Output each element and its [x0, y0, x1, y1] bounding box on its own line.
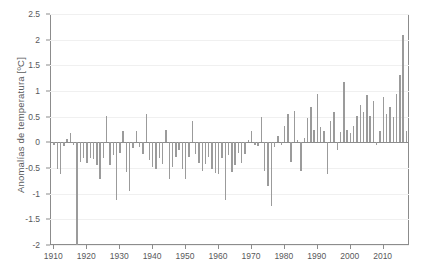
bar: [215, 142, 216, 173]
bar: [80, 142, 81, 162]
bar: [264, 142, 265, 170]
bar: [300, 142, 301, 170]
bar: [182, 142, 183, 169]
x-tick-mark: [152, 245, 153, 249]
x-tick-mark: [317, 245, 318, 249]
x-tick-mark: [185, 245, 186, 249]
bar: [323, 131, 324, 142]
bar: [139, 142, 140, 147]
bar: [353, 126, 354, 142]
bar: [337, 142, 338, 150]
bar: [188, 142, 189, 156]
bar: [274, 142, 275, 147]
bar: [149, 142, 150, 160]
bar: [350, 133, 351, 142]
y-tick-label: -0.5: [25, 163, 40, 173]
x-tick-mark: [350, 245, 351, 249]
bar: [96, 142, 97, 165]
bar: [106, 116, 107, 143]
bar: [393, 117, 394, 143]
left-axis-spine: [50, 14, 51, 245]
x-tick-mark: [218, 245, 219, 249]
bar: [165, 130, 166, 143]
right-axis-spine: [408, 14, 409, 245]
bar: [132, 142, 133, 148]
bar: [136, 131, 137, 142]
bar: [155, 142, 156, 169]
bar: [53, 142, 54, 145]
bar: [366, 95, 367, 142]
bar: [103, 142, 104, 157]
bar: [330, 121, 331, 143]
x-tick-label: 1920: [77, 251, 96, 261]
bar: [159, 142, 160, 157]
bar: [333, 112, 334, 143]
bar: [83, 142, 84, 157]
bar: [267, 142, 268, 186]
bar: [208, 142, 209, 156]
bar: [297, 140, 298, 143]
bar: [57, 142, 58, 169]
x-tick-label: 1930: [110, 251, 129, 261]
gridline: [50, 219, 409, 220]
bar: [202, 142, 203, 170]
y-tick-label: -1: [32, 189, 40, 199]
bar: [60, 142, 61, 174]
bar: [277, 136, 278, 142]
bar: [254, 142, 255, 145]
y-tick-label: 2.5: [28, 9, 40, 19]
bar: [396, 94, 397, 143]
bar: [231, 142, 232, 172]
bar: [238, 142, 239, 152]
x-tick-mark: [53, 245, 54, 249]
gridline: [50, 40, 409, 41]
x-axis-ticks: 1910192019301940195019601970198019902000…: [50, 245, 409, 269]
x-tick-label: 1980: [274, 251, 293, 261]
x-tick-label: 1950: [176, 251, 195, 261]
x-tick-label: 1990: [307, 251, 326, 261]
plot-area: [50, 14, 409, 245]
bar: [228, 142, 229, 155]
bar: [152, 142, 153, 167]
y-tick-label: -1.5: [25, 214, 40, 224]
bar: [290, 142, 291, 162]
bar: [376, 142, 377, 145]
bar: [185, 142, 186, 179]
bar: [93, 142, 94, 159]
bar: [261, 117, 262, 143]
bar: [218, 142, 219, 174]
y-tick-label: 1.5: [28, 60, 40, 70]
bar: [356, 116, 357, 143]
bar: [99, 142, 100, 179]
bar: [310, 107, 311, 142]
x-tick-mark: [119, 245, 120, 249]
bar: [221, 142, 222, 157]
x-tick-label: 1940: [143, 251, 162, 261]
bar: [284, 126, 285, 142]
x-tick-mark: [284, 245, 285, 249]
bar: [251, 131, 252, 142]
bar: [317, 94, 318, 143]
bar: [320, 127, 321, 142]
x-tick-mark: [251, 245, 252, 249]
gridline: [50, 117, 409, 118]
bar: [389, 107, 390, 142]
gridline: [50, 91, 409, 92]
bar: [178, 142, 179, 150]
bar: [86, 142, 87, 163]
x-tick-label: 1910: [44, 251, 63, 261]
bar: [406, 131, 407, 142]
y-tick-label: -2: [32, 240, 40, 250]
bar: [90, 142, 91, 157]
bar: [287, 114, 288, 142]
bar: [146, 114, 147, 142]
bar: [281, 142, 282, 145]
bar: [379, 131, 380, 142]
x-tick-label: 1960: [209, 251, 228, 261]
bar: [70, 133, 71, 142]
bar: [343, 82, 344, 143]
bar: [76, 142, 77, 245]
bar: [307, 118, 308, 143]
bar: [340, 132, 341, 142]
bar: [244, 142, 245, 153]
